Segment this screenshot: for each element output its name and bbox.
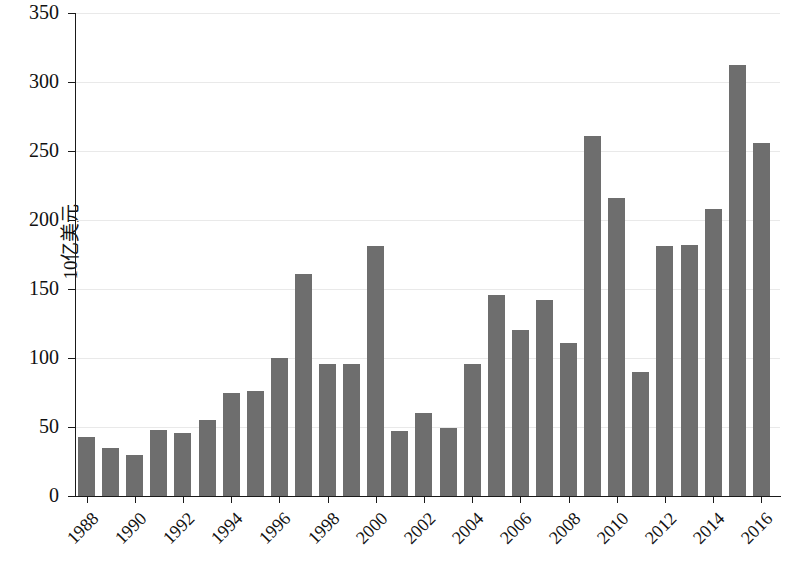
- x-tick-label: 2010: [583, 509, 631, 557]
- bar: [199, 420, 216, 496]
- x-tick-mark: [424, 497, 425, 503]
- bar: [391, 431, 408, 496]
- bar: [656, 246, 673, 496]
- bar: [729, 65, 746, 496]
- x-tick-mark: [761, 497, 762, 503]
- bar: [753, 143, 770, 496]
- bar: [343, 364, 360, 496]
- y-tick-label: 50: [17, 416, 59, 436]
- x-tick-label: 1998: [294, 509, 342, 557]
- x-tick-label: 1988: [53, 509, 101, 557]
- y-tick-mark: [68, 220, 75, 221]
- x-tick-label: 2000: [342, 509, 390, 557]
- x-tick-label: 1996: [246, 509, 294, 557]
- bar: [681, 245, 698, 496]
- y-tick-mark: [68, 151, 75, 152]
- x-tick-mark: [713, 497, 714, 503]
- y-tick-label: 150: [17, 278, 59, 298]
- bar: [126, 455, 143, 496]
- bar: [464, 364, 481, 496]
- y-tick-label: 300: [17, 71, 59, 91]
- x-tick-label: 2016: [728, 509, 776, 557]
- y-tick-label: 100: [17, 347, 59, 367]
- x-tick-mark: [87, 497, 88, 503]
- bar-series: [76, 13, 780, 497]
- x-tick-mark: [376, 497, 377, 503]
- plot-area: 050100150200250300350 198819901992199419…: [75, 13, 780, 497]
- x-tick-mark: [328, 497, 329, 503]
- y-tick-mark: [68, 82, 75, 83]
- x-tick-label: 2012: [632, 509, 680, 557]
- bar: [367, 246, 384, 496]
- bar: [295, 274, 312, 496]
- x-tick-mark: [617, 497, 618, 503]
- bar: [247, 391, 264, 496]
- x-tick-label: 2002: [391, 509, 439, 557]
- bar: [584, 136, 601, 496]
- x-tick-label: 1990: [101, 509, 149, 557]
- bar-chart: 10亿美元 050100150200250300350 198819901992…: [0, 0, 798, 567]
- x-tick-label: 2004: [439, 509, 487, 557]
- x-tick-mark: [569, 497, 570, 503]
- bar: [632, 372, 649, 496]
- y-tick-mark: [68, 13, 75, 14]
- bar: [319, 364, 336, 496]
- bar: [102, 448, 119, 496]
- x-tick-mark: [279, 497, 280, 503]
- y-tick-mark: [68, 496, 75, 497]
- y-tick-mark: [68, 427, 75, 428]
- bar: [488, 295, 505, 496]
- bar: [415, 413, 432, 496]
- x-tick-mark: [520, 497, 521, 503]
- y-tick-mark: [68, 358, 75, 359]
- x-tick-mark: [665, 497, 666, 503]
- bar: [78, 437, 95, 496]
- bar: [440, 428, 457, 496]
- y-tick-label: 0: [17, 485, 59, 505]
- bar: [536, 300, 553, 496]
- x-tick-label: 1994: [198, 509, 246, 557]
- x-tick-mark: [472, 497, 473, 503]
- x-tick-mark: [135, 497, 136, 503]
- x-tick-label: 2014: [680, 509, 728, 557]
- x-tick-label: 2006: [487, 509, 535, 557]
- x-tick-label: 2008: [535, 509, 583, 557]
- x-tick-label: 1992: [150, 509, 198, 557]
- x-tick-mark: [231, 497, 232, 503]
- y-tick-label: 200: [17, 209, 59, 229]
- bar: [223, 393, 240, 497]
- bar: [705, 209, 722, 496]
- x-tick-mark: [183, 497, 184, 503]
- y-tick-label: 250: [17, 140, 59, 160]
- bar: [560, 343, 577, 496]
- bar: [512, 330, 529, 496]
- bar: [271, 358, 288, 496]
- bar: [608, 198, 625, 496]
- bar: [150, 430, 167, 496]
- y-tick-mark: [68, 289, 75, 290]
- bar: [174, 433, 191, 496]
- y-tick-label: 350: [17, 2, 59, 22]
